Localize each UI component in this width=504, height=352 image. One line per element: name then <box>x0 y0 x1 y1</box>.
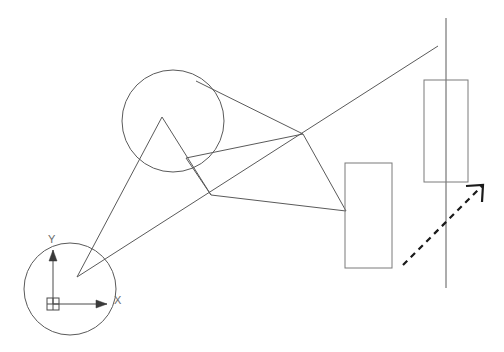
cad-drawing-svg[interactable]: X Y <box>0 0 504 352</box>
right-node-to-rect-line[interactable] <box>303 134 346 211</box>
direction-arrow-shaft <box>403 185 483 265</box>
circle-node-to-right-node-line[interactable] <box>186 134 303 158</box>
x-axis-arrowhead <box>96 300 107 308</box>
drawing-canvas: X Y <box>0 0 504 352</box>
origin-circle[interactable] <box>24 243 116 335</box>
rectangles-group <box>345 80 468 268</box>
geometry-lines-group <box>77 18 446 288</box>
upper-circle[interactable] <box>122 70 224 172</box>
middle-rectangle[interactable] <box>345 163 392 268</box>
x-axis-label: X <box>114 294 122 306</box>
circle-node-to-hub-line[interactable] <box>186 158 211 195</box>
hub-to-rect-line[interactable] <box>211 195 346 211</box>
y-axis-arrowhead <box>49 250 57 261</box>
long-diagonal-line[interactable] <box>77 46 438 277</box>
y-axis-label: Y <box>48 233 56 245</box>
apex-to-lower-left-line[interactable] <box>77 117 162 277</box>
direction-arrow[interactable] <box>403 185 483 265</box>
